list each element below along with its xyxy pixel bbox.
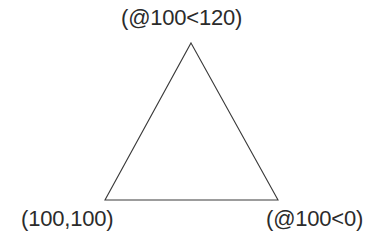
vertex-label-apex: (@100<120) [121, 6, 242, 30]
vertex-label-bottom-right: (@100<0) [266, 207, 363, 231]
diagram-canvas: (@100<120) (100,100) (@100<0) [0, 0, 389, 252]
vertex-label-bottom-left: (100,100) [21, 207, 113, 231]
triangle-outline [105, 43, 278, 200]
